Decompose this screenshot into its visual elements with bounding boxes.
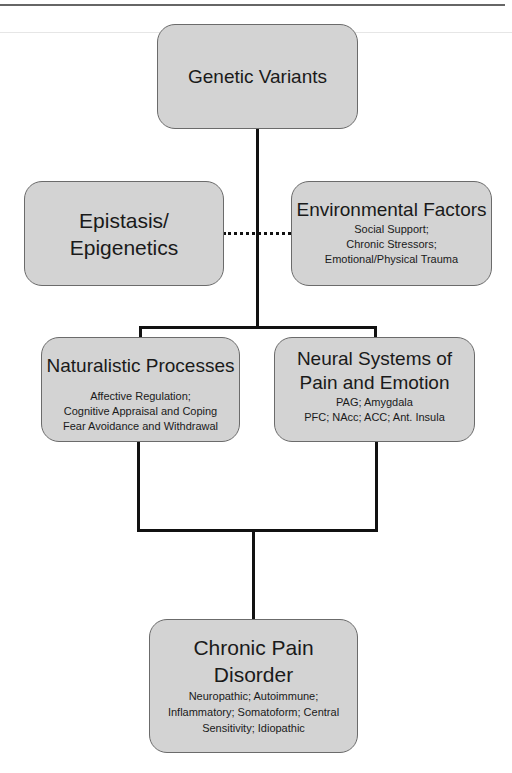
- connector-epistasis-environmental: [223, 232, 291, 235]
- node-environmental-factors: Environmental Factors Social Support; Ch…: [291, 181, 492, 286]
- node-detail: Neuropathic; Autoimmune;: [189, 688, 319, 704]
- connector-genetic-trunk: [256, 128, 259, 328]
- node-title: Genetic Variants: [188, 65, 327, 89]
- node-title-line2: Disorder: [214, 661, 293, 688]
- node-detail: PFC; NAcc; ACC; Ant. Insula: [304, 410, 445, 425]
- node-neural-systems: Neural Systems of Pain and Emotion PAG; …: [274, 337, 475, 442]
- connector-to-chronic-pain: [252, 529, 255, 619]
- node-epistasis-epigenetics: Epistasis/ Epigenetics: [24, 181, 224, 286]
- node-detail: Sensitivity; Idiopathic: [202, 720, 305, 736]
- node-title: Naturalistic Processes: [47, 354, 235, 378]
- connector-from-neural: [375, 441, 378, 531]
- node-genetic-variants: Genetic Variants: [157, 24, 358, 129]
- node-detail: Chronic Stressors;: [346, 237, 436, 252]
- node-title-line2: Epigenetics: [70, 234, 179, 261]
- connector-split-horizontal: [139, 326, 377, 329]
- node-title: Environmental Factors: [296, 198, 486, 222]
- node-title-line2: Pain and Emotion: [300, 371, 450, 395]
- node-detail: Inflammatory; Somatoform; Central: [168, 704, 339, 720]
- node-detail: Fear Avoidance and Withdrawal: [63, 419, 218, 434]
- connector-to-neural: [374, 326, 377, 337]
- node-naturalistic-processes: Naturalistic Processes Affective Regulat…: [41, 337, 240, 442]
- connector-join-horizontal: [137, 529, 378, 532]
- top-rule: [0, 4, 505, 6]
- node-title-line1: Neural Systems of: [297, 347, 452, 371]
- node-chronic-pain-disorder: Chronic Pain Disorder Neuropathic; Autoi…: [149, 619, 358, 753]
- node-detail: Emotional/Physical Trauma: [325, 252, 458, 267]
- node-title-line1: Chronic Pain: [193, 634, 313, 661]
- connector-from-naturalistic: [137, 441, 140, 531]
- connector-to-naturalistic: [139, 326, 142, 337]
- node-detail: PAG; Amygdala: [336, 395, 413, 410]
- node-detail: Cognitive Appraisal and Coping: [64, 404, 218, 419]
- node-title-line1: Epistasis/: [79, 207, 169, 234]
- node-detail: Social Support;: [354, 222, 429, 237]
- node-detail: Affective Regulation;: [90, 389, 191, 404]
